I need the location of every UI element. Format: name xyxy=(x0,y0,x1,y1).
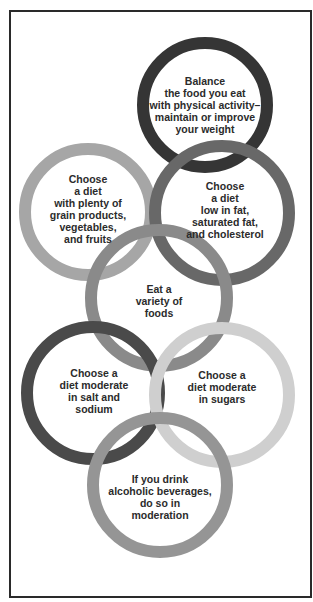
ring-label-sugars: Choose a diet moderate in sugars xyxy=(170,369,274,405)
ring-label-balance: Balance the food you eat with physical a… xyxy=(130,75,280,135)
ring-label-salt: Choose a diet moderate in salt and sodiu… xyxy=(40,367,148,415)
ring-label-variety: Eat a variety of foods xyxy=(110,283,208,319)
ring-label-fat: Choose a diet low in fat, saturated fat,… xyxy=(160,180,290,240)
ring-label-alcohol: If you drink alcoholic beverages, do so … xyxy=(95,473,225,521)
ring-label-grain: Choose a diet with plenty of grain produ… xyxy=(18,173,158,245)
